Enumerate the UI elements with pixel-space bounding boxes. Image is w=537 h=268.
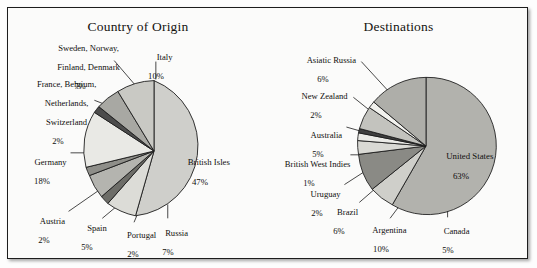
- chart-panel-country-of-origin: Country of Origin: [8, 8, 268, 258]
- pie-label-british-isles: British Isles 47%: [160, 148, 240, 207]
- chart-title-country-of-origin: Country of Origin: [8, 19, 268, 35]
- pie-label-austria: Austria 2%: [20, 207, 68, 265]
- figure-frame: Country of Origin: [7, 7, 528, 259]
- chart-title-destinations: Destinations: [268, 19, 529, 35]
- pie-label-canada: Canada 5%: [424, 217, 472, 268]
- figure-root: Country of Origin: [0, 0, 537, 268]
- pie-label-germany: Germany 18%: [14, 148, 70, 206]
- chart-panel-destinations: Destinations: [268, 8, 529, 258]
- pie-label-russia: Russia 7%: [146, 219, 190, 268]
- pie-label-italy: Italy 10%: [132, 43, 180, 101]
- pie-label-united-states: United States 63%: [416, 142, 506, 201]
- pie-label-spain: Spain 5%: [70, 214, 104, 268]
- pie-label-argentina: Argentina 10%: [352, 216, 410, 268]
